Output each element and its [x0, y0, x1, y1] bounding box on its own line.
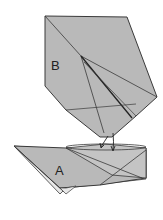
- label-b: B: [51, 59, 60, 72]
- fold-illustration: [0, 0, 163, 220]
- flap-b: [45, 16, 157, 137]
- flap-a: [14, 144, 146, 194]
- origami-diagram: B A: [0, 0, 163, 220]
- label-a: A: [55, 164, 64, 177]
